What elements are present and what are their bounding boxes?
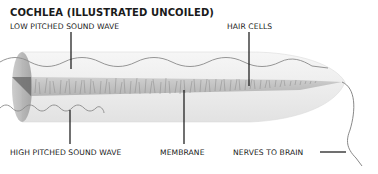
label-high-pitched-wave: HIGH PITCHED SOUND WAVE [10,148,121,157]
nerve-line [342,82,362,166]
label-membrane: MEMBRANE [160,148,205,157]
label-nerves-to-brain: NERVES TO BRAIN [233,148,303,157]
label-hair-cells: HAIR CELLS [227,22,272,31]
label-low-pitched-wave: LOW PITCHED SOUND WAVE [10,22,119,31]
